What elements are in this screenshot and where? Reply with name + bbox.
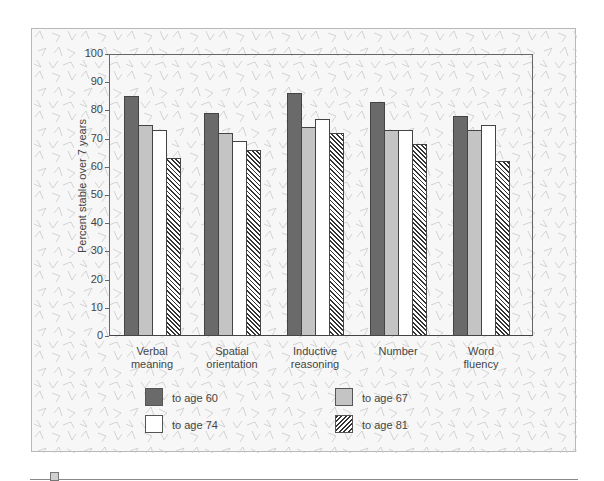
- bar-to-age-74: [481, 125, 496, 337]
- y-tick-mark: [105, 336, 109, 337]
- y-tick-mark: [105, 139, 109, 140]
- bar-to-age-67: [301, 127, 316, 336]
- legend-label: to age 67: [362, 392, 408, 404]
- y-tick-label: 100: [77, 47, 103, 59]
- y-tick-mark: [105, 54, 109, 55]
- y-tick-label: 0: [77, 329, 103, 341]
- y-tick-mark: [105, 110, 109, 111]
- x-category-label: Inductivereasoning: [275, 345, 355, 371]
- legend-label: to age 60: [172, 392, 218, 404]
- x-category-label: Spatialorientation: [192, 345, 272, 371]
- legend-swatch: [145, 388, 163, 406]
- legend-label: to age 74: [172, 419, 218, 431]
- bar-to-age-81: [495, 161, 510, 336]
- y-tick-mark: [105, 167, 109, 168]
- y-tick-label: 10: [77, 301, 103, 313]
- bar-to-age-74: [398, 130, 413, 336]
- bar-to-age-74: [232, 141, 247, 336]
- legend-label: to age 81: [362, 419, 408, 431]
- bar-to-age-81: [329, 133, 344, 336]
- y-tick-mark: [105, 223, 109, 224]
- bar-to-age-60: [453, 116, 468, 336]
- bar-to-age-67: [467, 130, 482, 336]
- bar-to-age-60: [124, 96, 139, 336]
- legend-swatch: [145, 415, 163, 433]
- bottom-rule: [30, 479, 578, 480]
- slider-handle[interactable]: [50, 472, 59, 481]
- bar-to-age-67: [384, 130, 399, 336]
- y-tick-mark: [105, 195, 109, 196]
- bar-to-age-67: [138, 125, 153, 337]
- y-tick-mark: [105, 280, 109, 281]
- bar-to-age-81: [246, 150, 261, 336]
- bar-to-age-60: [287, 93, 302, 336]
- bar-to-age-60: [370, 102, 385, 336]
- x-category-label: Wordfluency: [441, 345, 521, 371]
- y-tick-mark: [105, 251, 109, 252]
- y-tick-label: 20: [77, 273, 103, 285]
- y-tick-label: 90: [77, 75, 103, 87]
- bar-to-age-81: [412, 144, 427, 336]
- y-tick-mark: [105, 82, 109, 83]
- y-tick-mark: [105, 308, 109, 309]
- bar-to-age-67: [218, 133, 233, 336]
- bar-to-age-74: [315, 119, 330, 336]
- y-tick-label: 80: [77, 103, 103, 115]
- y-axis-label: Percent stable over 7 years: [76, 119, 88, 253]
- bar-to-age-74: [152, 130, 167, 336]
- bar-to-age-81: [166, 158, 181, 336]
- bar-to-age-60: [204, 113, 219, 336]
- legend-swatch: [335, 388, 353, 406]
- legend-swatch: [335, 415, 353, 433]
- x-category-label: Verbalmeaning: [112, 345, 192, 371]
- x-category-label: Number: [358, 345, 438, 358]
